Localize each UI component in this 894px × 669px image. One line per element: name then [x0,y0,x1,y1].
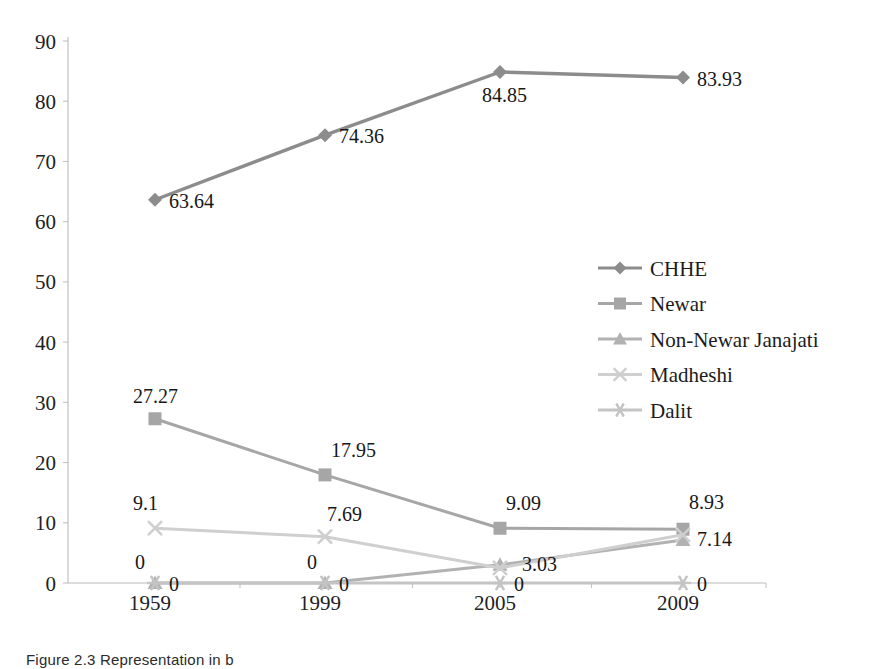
data-label: 8.93 [689,491,724,513]
series-group [147,65,691,590]
y-axis-tick-label: 90 [35,30,56,54]
data-point-marker [319,468,332,481]
legend-item-madheshi[interactable]: Madheshi [598,363,733,387]
y-axis-tick-label: 70 [35,150,56,174]
legend-label: Dalit [650,399,692,423]
data-label: 3.03 [522,553,557,575]
series-newar [149,412,690,535]
legend-label: Madheshi [650,363,733,387]
figure-caption: Figure 2.3 Representation in b [26,651,234,668]
y-axis-tick-label: 10 [35,511,56,535]
data-label: 7.69 [327,503,362,525]
x-axis-tick-label: 1999 [299,591,341,615]
legend-item-chhe[interactable]: CHHE [598,257,707,281]
data-point-marker [318,128,332,142]
y-axis-tick-label: 50 [35,270,56,294]
data-point-marker [148,193,162,207]
x-axis-tick-label: 2009 [657,591,699,615]
legend-item-dalit[interactable]: Dalit [598,399,692,423]
data-label: 0 [514,573,524,595]
data-label: 83.93 [697,68,742,90]
data-point-marker [676,71,690,85]
data-point-marker [149,412,162,425]
data-point-marker [493,65,507,79]
y-axis-tick-label: 60 [35,210,56,234]
data-label: 27.27 [133,385,178,407]
series-dalit [147,576,691,590]
y-axis-tick-label: 20 [35,451,56,475]
series-line [155,540,683,583]
series-non-newar-janajati [148,533,691,589]
y-axis-tick-label: 80 [35,90,56,114]
legend-label: Non-Newar Janajati [650,328,819,352]
data-point-marker [613,404,628,417]
data-point-marker [614,298,626,310]
y-axis-tick-labels: 0102030405060708090 [35,30,56,596]
data-label: 74.36 [339,125,384,147]
legend-label: CHHE [650,257,707,281]
y-axis-tick-label: 0 [46,572,57,596]
legend-item-non-newar-janajati[interactable]: Non-Newar Janajati [598,328,819,352]
y-axis-tick-label: 40 [35,331,56,355]
data-label: 7.14 [697,528,732,550]
data-label: 63.64 [169,190,214,212]
data-label: 0 [307,551,317,573]
data-label: 17.95 [331,439,376,461]
figure-container: 0102030405060708090 1959199920052009 63.… [0,0,894,669]
data-label: 9.09 [506,492,541,514]
x-axis-tick-label: 1959 [129,591,171,615]
data-point-marker [494,522,507,535]
data-label: 0 [339,573,349,595]
data-label: 0 [697,573,707,595]
line-chart: 0102030405060708090 1959199920052009 63.… [0,0,894,669]
x-axis-tick-labels: 1959199920052009 [129,591,699,615]
chart-legend: CHHENewarNon-Newar JanajatiMadheshiDalit [598,257,819,423]
series-line [155,528,683,568]
data-label: 0 [169,573,179,595]
series-chhe [148,65,690,207]
x-axis-tick-label: 2005 [474,591,516,615]
legend-item-newar[interactable]: Newar [598,292,706,316]
data-label: 9.1 [133,492,158,514]
legend-label: Newar [650,292,706,316]
series-line [155,72,683,200]
series-line [155,419,683,529]
data-label: 84.85 [482,84,527,106]
data-point-marker [614,262,627,275]
y-axis-tick-label: 30 [35,391,56,415]
data-label: 0 [135,551,145,573]
